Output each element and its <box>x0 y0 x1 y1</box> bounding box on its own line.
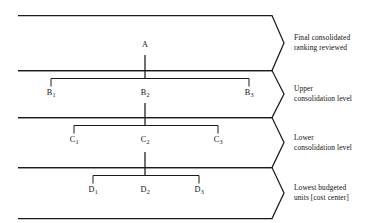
node-c2-base: C <box>141 135 146 144</box>
bracket-d-level <box>93 176 199 184</box>
node-c2-sub: 2 <box>146 139 149 145</box>
node-b1-sub: 1 <box>52 92 55 98</box>
node-c3-base: C <box>214 135 219 144</box>
node-c1-base: C <box>70 135 75 144</box>
band-caption-d: Lowest budgeted units [cost center] <box>294 183 349 202</box>
node-label-b2: B2 <box>141 88 150 97</box>
band-caption-b: Upper consolidation level <box>294 84 352 103</box>
node-label-d2: D2 <box>141 185 150 194</box>
node-label-a: A <box>142 40 148 49</box>
bracket-c-level <box>74 126 218 134</box>
node-d3-sub: 3 <box>201 189 204 195</box>
node-c3-sub: 3 <box>219 139 222 145</box>
node-b3-base: B <box>245 88 250 97</box>
node-label-c3: C3 <box>214 135 223 144</box>
node-b2-base: B <box>141 88 146 97</box>
bracket-b-level <box>51 79 249 87</box>
node-d1-sub: 1 <box>95 189 98 195</box>
node-a-base: A <box>142 40 148 49</box>
node-b3-sub: 3 <box>250 92 253 98</box>
band-caption-c: Lower consolidation level <box>294 133 352 152</box>
band-caption-a: Final consolidated ranking reviewed <box>294 33 350 52</box>
band-outline-a <box>18 16 284 71</box>
node-c1-sub: 1 <box>75 139 78 145</box>
node-label-d3: D3 <box>195 185 204 194</box>
node-label-d1: D1 <box>89 185 98 194</box>
node-label-c1: C1 <box>70 135 79 144</box>
node-b2-sub: 2 <box>146 92 149 98</box>
hierarchy-diagram: A B1 B2 B3 C1 C2 C3 D1 D2 D3 Final conso… <box>0 0 366 223</box>
node-d2-sub: 2 <box>147 189 150 195</box>
node-label-b1: B1 <box>47 88 56 97</box>
node-label-c2: C2 <box>141 135 150 144</box>
node-b1-base: B <box>47 88 52 97</box>
node-label-b3: B3 <box>245 88 254 97</box>
